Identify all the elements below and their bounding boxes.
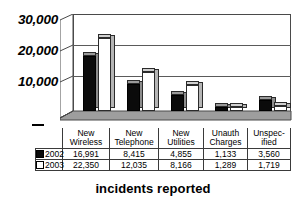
header-line2: Utilities <box>167 137 194 147</box>
bar-group-new-wireless <box>83 14 123 111</box>
table-row: 2003 22,350 12,035 8,166 1,289 1,719 <box>36 160 291 171</box>
bar-2002-new-telephone <box>127 84 140 111</box>
table-header-unauth-charges: Unauth Charges <box>204 128 248 149</box>
cell-2003-new-utilities: 8,166 <box>159 160 204 171</box>
cell-2003-unauth-charges: 1,289 <box>204 160 248 171</box>
table-header-unspecified: Unspec- ified <box>248 128 291 149</box>
y-axis-tick-30000: 30,000 <box>0 14 58 26</box>
bar-2003-new-wireless <box>98 38 111 111</box>
header-line2: ified <box>261 137 277 147</box>
bar-group-unauth-charges <box>215 14 255 111</box>
chart-title: incidents reported <box>0 181 306 196</box>
bar-2002-new-wireless <box>83 56 96 111</box>
table-header-row: New Wireless New Telephone New Utilities… <box>36 128 291 149</box>
plot-area <box>60 14 292 126</box>
table-header-new-telephone: New Telephone <box>110 128 159 149</box>
header-line2: Telephone <box>114 137 153 147</box>
bar-2003-new-utilities <box>186 85 199 111</box>
bar-2002-new-utilities <box>171 95 184 111</box>
legend-label-2003: 2003 <box>45 160 64 170</box>
table-header-new-wireless: New Wireless <box>63 128 110 149</box>
header-line1: Unspec- <box>253 128 285 138</box>
cell-2002-new-utilities: 4,855 <box>159 149 204 160</box>
table-row: 2002 16,991 8,415 4,855 1,133 3,560 <box>36 149 291 160</box>
cell-2003-new-telephone: 12,035 <box>110 160 159 171</box>
header-line1: New <box>77 128 94 138</box>
y-axis-tick-20000: 20,000 <box>0 45 58 57</box>
legend-label-2002: 2002 <box>45 149 64 159</box>
data-table: New Wireless New Telephone New Utilities… <box>35 128 291 171</box>
legend-item-2002: 2002 <box>36 149 63 160</box>
bar-2002-unauth-charges <box>215 107 228 111</box>
legend-item-2003: 2003 <box>36 160 63 171</box>
header-line1: New <box>172 128 189 138</box>
header-line1: Unauth <box>212 128 239 138</box>
bar-2002-unspecified <box>259 100 272 111</box>
table-corner-cell <box>36 128 63 149</box>
bar-group-new-utilities <box>171 14 211 111</box>
cell-2002-unspecified: 3,560 <box>248 149 291 160</box>
y-axis: 30,000 20,000 10,000 <box>0 0 58 130</box>
header-line1: New <box>125 128 142 138</box>
bar-2003-unauth-charges <box>230 107 243 111</box>
y-axis-zero-marker <box>32 124 44 126</box>
hollow-square-icon <box>36 161 44 169</box>
cell-2003-unspecified: 1,719 <box>248 160 291 171</box>
bar-group-unspecified <box>259 14 299 111</box>
header-line2: Wireless <box>70 137 103 147</box>
bar-group-new-telephone <box>127 14 167 111</box>
bar-2003-unspecified <box>274 106 287 111</box>
cell-2002-new-telephone: 8,415 <box>110 149 159 160</box>
y-axis-tick-10000: 10,000 <box>0 76 58 88</box>
chart-figure: 30,000 20,000 10,000 <box>0 0 306 205</box>
header-line2: Charges <box>209 137 241 147</box>
cell-2002-new-wireless: 16,991 <box>63 149 110 160</box>
cell-2002-unauth-charges: 1,133 <box>204 149 248 160</box>
table-header-new-utilities: New Utilities <box>159 128 204 149</box>
filled-square-icon <box>36 150 44 158</box>
cell-2003-new-wireless: 22,350 <box>63 160 110 171</box>
bar-2003-new-telephone <box>142 72 155 111</box>
bar-series-container <box>60 14 292 126</box>
